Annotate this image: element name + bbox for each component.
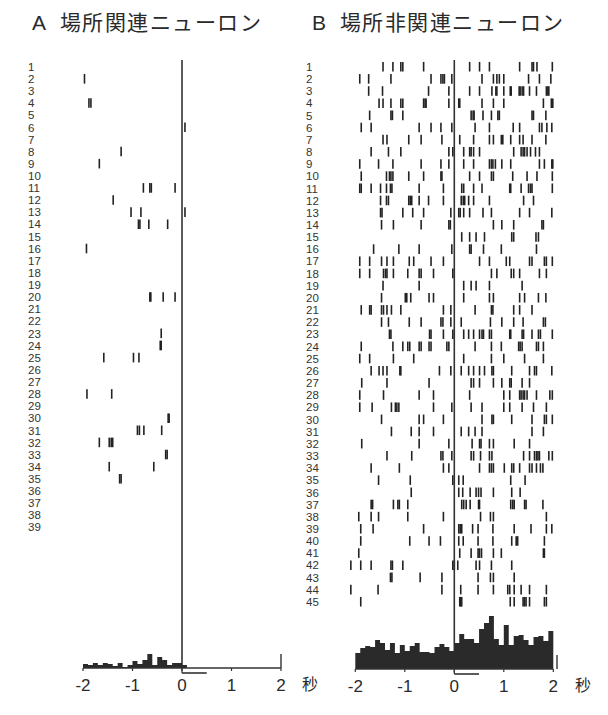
x-tick-label: -1 (125, 676, 140, 695)
trial-row: 31 (306, 426, 543, 438)
trial-row: 37 (28, 497, 41, 509)
trial-number-label: 34 (28, 461, 41, 473)
trial-number-label: 45 (306, 596, 319, 608)
trial-number-label: 33 (28, 449, 41, 461)
trial-row: 6 (306, 122, 552, 134)
trial-row: 19 (306, 280, 522, 292)
x-tick-label: 2 (549, 677, 558, 696)
trial-number-label: 26 (306, 365, 319, 377)
trial-row: 6 (28, 122, 185, 134)
trial-number-label: 30 (28, 412, 41, 424)
trial-row: 7 (28, 134, 34, 146)
trial-number-label: 27 (306, 377, 319, 389)
trial-row: 42 (306, 559, 512, 571)
trial-number-label: 29 (28, 400, 41, 412)
trial-number-label: 20 (28, 291, 41, 303)
trial-row: 39 (306, 523, 552, 535)
trial-number-label: 25 (28, 352, 41, 364)
trial-number-label: 9 (28, 158, 34, 170)
trial-number-label: 27 (28, 376, 41, 388)
trial-number-label: 2 (28, 73, 34, 85)
trial-row: 5 (28, 109, 34, 121)
trial-row: 41 (306, 547, 544, 559)
trial-number-label: 31 (306, 426, 319, 438)
trial-number-label: 7 (306, 134, 312, 146)
trial-row: 3 (28, 85, 34, 97)
trial-number-label: 38 (28, 509, 41, 521)
panel-a-raster-plot: 1234567891011121314151617181920212223242… (28, 60, 318, 695)
trial-row: 44 (306, 584, 546, 596)
trial-number-label: 39 (28, 521, 41, 533)
x-tick-label: 1 (227, 676, 236, 695)
trial-number-label: 39 (306, 523, 319, 535)
trial-row: 9 (306, 158, 553, 170)
trial-number-label: 43 (306, 572, 319, 584)
trial-number-label: 8 (28, 146, 34, 158)
trial-number-label: 42 (306, 559, 319, 571)
trial-row: 12 (28, 194, 113, 206)
trial-number-label: 32 (306, 438, 319, 450)
trial-number-label: 24 (28, 340, 41, 352)
trial-row: 22 (28, 315, 41, 327)
trial-row: 7 (306, 134, 546, 146)
trial-row: 28 (28, 388, 112, 400)
trial-row: 38 (28, 509, 41, 521)
trial-row: 18 (306, 268, 546, 280)
trial-row: 10 (28, 170, 41, 182)
trial-row: 33 (28, 449, 167, 461)
trial-row: 40 (306, 535, 544, 547)
trial-row: 14 (306, 219, 543, 231)
trial-row: 21 (28, 303, 41, 315)
trial-number-label: 37 (28, 497, 41, 509)
trial-number-label: 31 (28, 425, 41, 437)
trial-row: 45 (306, 596, 546, 608)
trial-row: 21 (306, 304, 532, 316)
trial-row: 22 (306, 316, 545, 328)
trial-number-label: 44 (306, 584, 319, 596)
trial-number-label: 9 (306, 158, 312, 170)
trial-number-label: 21 (306, 304, 319, 316)
x-axis-unit-label: 秒 (575, 676, 591, 695)
trial-number-label: 5 (28, 109, 34, 121)
trial-number-label: 23 (28, 328, 41, 340)
trial-number-label: 7 (28, 134, 34, 146)
trial-row: 20 (306, 292, 546, 304)
trial-number-label: 4 (28, 97, 35, 109)
trial-number-label: 29 (306, 401, 319, 413)
trial-number-label: 25 (306, 353, 319, 365)
trial-row: 24 (306, 341, 543, 353)
trial-row: 30 (28, 412, 169, 424)
x-tick-label: 2 (276, 676, 285, 695)
trial-row: 15 (306, 231, 538, 243)
trial-number-label: 10 (306, 170, 319, 182)
trial-row: 29 (28, 400, 41, 412)
trial-number-label: 6 (306, 122, 312, 134)
trial-row: 25 (28, 352, 139, 364)
trial-number-label: 32 (28, 437, 41, 449)
trial-number-label: 5 (306, 110, 312, 122)
trial-number-label: 21 (28, 303, 41, 315)
trial-row: 20 (28, 291, 175, 303)
x-tick-label: -2 (75, 676, 90, 695)
trial-row: 28 (306, 389, 552, 401)
trial-number-label: 3 (28, 85, 34, 97)
trial-number-label: 16 (28, 243, 41, 255)
trial-number-label: 34 (306, 462, 319, 474)
x-tick-label: 0 (450, 677, 459, 696)
trial-number-label: 37 (306, 499, 319, 511)
trial-number-label: 41 (306, 547, 319, 559)
trial-number-label: 11 (28, 182, 40, 194)
trial-number-label: 40 (306, 535, 319, 547)
trial-number-label: 22 (28, 315, 41, 327)
trial-row: 13 (28, 206, 185, 218)
trial-number-label: 20 (306, 292, 319, 304)
trial-row: 29 (306, 401, 546, 413)
trial-number-label: 2 (306, 73, 312, 85)
trial-row: 35 (306, 474, 525, 486)
trial-row: 38 (306, 511, 546, 523)
trial-row: 23 (306, 328, 552, 340)
x-axis: -2-1012秒 (75, 668, 318, 695)
trial-number-label: 17 (306, 255, 319, 267)
trial-number-label: 28 (306, 389, 319, 401)
trial-row: 11 (306, 183, 552, 195)
